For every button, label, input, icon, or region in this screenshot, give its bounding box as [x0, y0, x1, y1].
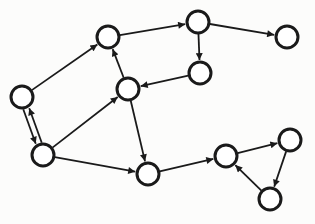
- edge-f-to-b: [113, 49, 124, 78]
- edge-b-to-c: [120, 24, 185, 35]
- edge-j-to-k: [274, 151, 286, 186]
- edge-h-to-i: [160, 159, 214, 171]
- edge-a-to-b: [32, 44, 97, 90]
- node-i: [215, 145, 237, 167]
- node-j: [279, 129, 301, 151]
- edge-g-to-f: [52, 97, 117, 148]
- edge-g-to-a: [29, 108, 41, 142]
- node-g: [32, 144, 54, 166]
- edge-g-to-h: [55, 157, 135, 172]
- node-f: [117, 78, 139, 100]
- node-c: [187, 11, 209, 33]
- edge-c-to-e: [198, 34, 199, 60]
- edge-f-to-h: [131, 101, 145, 162]
- node-e: [189, 62, 211, 84]
- node-d: [276, 26, 298, 48]
- graph-diagram: [0, 0, 315, 224]
- graph-canvas: [0, 0, 315, 224]
- edge-a-to-g: [23, 109, 35, 143]
- edge-c-to-d: [210, 24, 274, 35]
- node-k: [259, 188, 281, 210]
- node-h: [137, 163, 159, 185]
- edge-k-to-i: [235, 165, 261, 191]
- node-a: [11, 86, 33, 108]
- edge-e-to-f: [141, 76, 189, 87]
- edge-i-to-j: [238, 143, 278, 153]
- node-b: [97, 26, 119, 48]
- nodes-layer: [11, 11, 301, 210]
